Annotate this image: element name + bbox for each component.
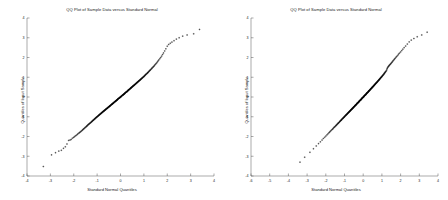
x-tick-label: 1 <box>381 179 383 183</box>
left-panel: QQ Plot of Sample Data versus Standard N… <box>0 0 224 200</box>
y-tick-label: 3 <box>23 36 25 40</box>
data-point-marker <box>325 135 327 137</box>
data-point-marker <box>399 52 401 54</box>
data-point-marker <box>318 143 320 145</box>
data-point-marker <box>163 52 165 54</box>
data-point-marker <box>43 166 45 168</box>
x-tick-label: -4 <box>287 179 290 183</box>
data-point-marker <box>51 154 53 156</box>
right-panel: QQ Plot of Sample Data versus Standard N… <box>224 0 448 200</box>
data-point-marker <box>63 148 65 150</box>
left-axis-label-y: Quantiles of Input Sample <box>20 52 25 148</box>
x-tick-label: -3 <box>49 179 52 183</box>
data-point-marker <box>321 139 323 141</box>
data-point-marker <box>416 36 418 38</box>
x-tick-label: -4 <box>25 179 28 183</box>
x-tick-label: -5 <box>268 179 271 183</box>
x-tick-label: -6 <box>249 179 252 183</box>
left-panel-inner: QQ Plot of Sample Data versus Standard N… <box>0 0 224 200</box>
y-tick-label: 4 <box>247 16 249 20</box>
x-tick-label: 4 <box>437 179 439 183</box>
data-point-marker <box>168 44 170 46</box>
data-point-marker <box>315 145 317 147</box>
data-point-marker <box>406 43 408 45</box>
data-point-marker <box>64 146 66 148</box>
x-tick-label: 1 <box>143 179 145 183</box>
data-point-marker <box>400 51 402 53</box>
data-point-marker <box>164 50 166 52</box>
data-point-marker <box>178 37 180 39</box>
data-point-marker <box>324 136 326 138</box>
x-tick-label: -2 <box>324 179 327 183</box>
left-plot-canvas: -4-3-2-101234-4-3-2-101234 <box>0 0 224 200</box>
data-point-marker <box>421 34 423 36</box>
data-point-marker <box>405 45 407 47</box>
data-point-marker <box>162 54 164 56</box>
x-tick-label: 3 <box>418 179 420 183</box>
x-tick-label: -1 <box>343 179 346 183</box>
data-point-marker <box>58 150 60 152</box>
x-tick-label: -1 <box>96 179 99 183</box>
data-point-marker <box>159 58 161 60</box>
data-point-marker <box>320 141 322 143</box>
data-point-marker <box>403 47 405 49</box>
data-point-marker <box>193 33 195 35</box>
data-point-marker <box>66 143 68 145</box>
data-point-marker <box>182 35 184 37</box>
data-point-marker <box>61 149 63 151</box>
data-point-marker <box>171 41 173 43</box>
data-point-marker <box>186 34 188 36</box>
data-point-marker <box>55 152 57 154</box>
data-point-marker <box>309 151 311 153</box>
data-point-marker <box>401 50 403 52</box>
data-point-marker <box>327 133 329 135</box>
x-tick-label: -2 <box>72 179 75 183</box>
right-panel-inner: QQ Plot of Sample Data versus Standard N… <box>224 0 448 200</box>
data-point-marker <box>165 48 167 50</box>
y-tick-label: 4 <box>23 16 25 20</box>
data-point-marker <box>413 38 415 40</box>
data-point-marker <box>326 134 328 136</box>
right-axis-label-x: Standard Normal Quantiles <box>224 187 448 192</box>
x-tick-label: 2 <box>400 179 402 183</box>
data-point-marker <box>173 40 175 42</box>
data-point-marker <box>410 39 412 41</box>
qq-plot-figure: QQ Plot of Sample Data versus Standard N… <box>0 0 448 200</box>
data-point-marker <box>161 55 163 57</box>
data-point-marker <box>169 42 171 44</box>
data-point-marker <box>323 138 325 140</box>
data-point-marker <box>304 156 306 158</box>
data-point-marker <box>199 29 201 31</box>
data-point-marker <box>160 57 162 59</box>
left-ylabel-wrap: Quantiles of Input Sample <box>12 0 22 200</box>
left-axis-label-x: Standard Normal Quantiles <box>0 187 224 192</box>
data-point-marker <box>426 31 428 33</box>
x-tick-label: 0 <box>362 179 364 183</box>
data-point-marker <box>166 45 168 47</box>
x-tick-label: 3 <box>190 179 192 183</box>
data-point-marker <box>176 38 178 40</box>
x-tick-label: 0 <box>120 179 122 183</box>
right-axis-label-y: Quantiles of Input Sample <box>244 52 249 148</box>
right-plot-canvas: -6-5-4-3-2-101234-4-3-2-101234 <box>224 0 448 200</box>
x-tick-label: 2 <box>166 179 168 183</box>
data-point-marker <box>402 48 404 50</box>
right-ylabel-wrap: Quantiles of Input Sample <box>236 0 246 200</box>
data-point-marker <box>408 41 410 43</box>
data-point-marker <box>299 161 301 163</box>
data-point-marker <box>313 148 315 150</box>
y-tick-label: 3 <box>247 36 249 40</box>
x-tick-label: 4 <box>213 179 215 183</box>
x-tick-label: -3 <box>305 179 308 183</box>
